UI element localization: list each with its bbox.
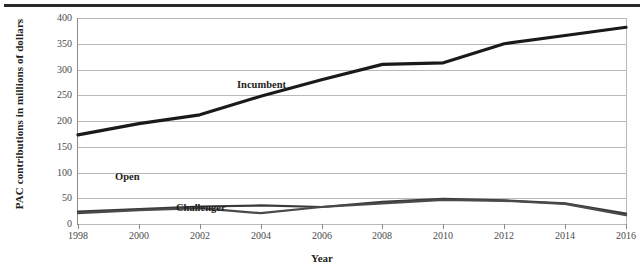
series-label-open: Open: [115, 171, 140, 182]
y-tick-label: 150: [30, 141, 72, 152]
x-tick-mark: [565, 224, 566, 229]
y-tick-label: 350: [30, 38, 72, 49]
x-tick-mark: [382, 224, 383, 229]
x-tick-mark: [443, 224, 444, 229]
chart-figure: PAC contributions in millions of dollars…: [0, 0, 644, 273]
x-tick-mark: [626, 224, 627, 229]
plot-area: IncumbentOpenChallenger: [78, 18, 626, 224]
y-axis-title: PAC contributions in millions of dollars: [13, 9, 25, 219]
y-tick-label: 200: [30, 115, 72, 126]
y-tick-label: 50: [30, 192, 72, 203]
x-tick-label: 2014: [535, 230, 595, 241]
x-tick-label: 2016: [596, 230, 644, 241]
plot-right-border: [626, 18, 627, 225]
y-tick-label: 400: [30, 12, 72, 23]
x-tick-mark: [322, 224, 323, 229]
series-label-challenger: Challenger: [176, 202, 226, 213]
x-tick-mark: [504, 224, 505, 229]
series-lines: [78, 18, 626, 224]
top-rule-divider: [4, 4, 640, 7]
x-tick-label: 2010: [413, 230, 473, 241]
y-tick-label: 100: [30, 167, 72, 178]
x-tick-label: 2008: [352, 230, 412, 241]
x-tick-label: 2012: [474, 230, 534, 241]
x-tick-label: 2000: [109, 230, 169, 241]
x-tick-label: 1998: [48, 230, 108, 241]
x-tick-label: 2006: [292, 230, 352, 241]
x-tick-mark: [261, 224, 262, 229]
x-tick-mark: [139, 224, 140, 229]
x-tick-mark: [78, 224, 79, 229]
series-label-incumbent: Incumbent: [237, 79, 286, 90]
gridline-0: [78, 224, 626, 225]
y-tick-label: 300: [30, 64, 72, 75]
series-line-incumbent: [78, 27, 626, 135]
x-axis-title: Year: [0, 252, 644, 264]
x-tick-label: 2004: [231, 230, 291, 241]
x-tick-mark: [200, 224, 201, 229]
y-tick-label: 250: [30, 89, 72, 100]
x-tick-label: 2002: [170, 230, 230, 241]
y-tick-label: 0: [30, 218, 72, 229]
